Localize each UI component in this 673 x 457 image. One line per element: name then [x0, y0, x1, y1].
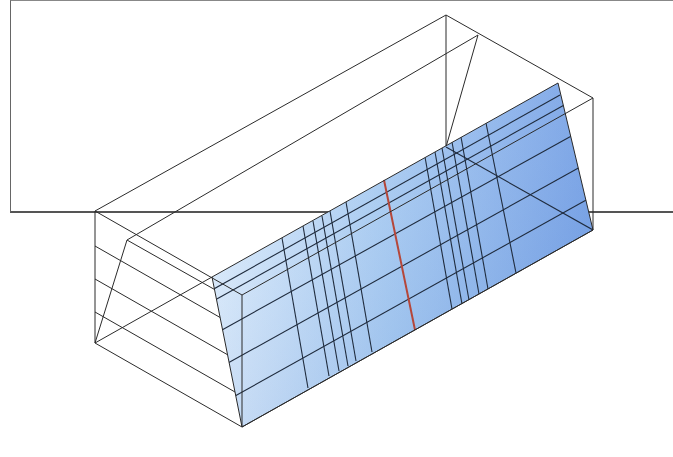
slicing-plane — [212, 83, 593, 427]
